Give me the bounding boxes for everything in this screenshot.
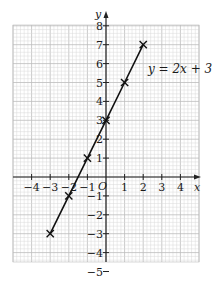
y-tick-label: 3 (96, 114, 103, 127)
y-tick-label: 8 (96, 20, 103, 33)
x-tick-label: 3 (158, 181, 165, 194)
x-tick-label: −4 (23, 181, 39, 194)
tick-labels: −4−3−2−11234−5−4−3−2−112345678 (23, 20, 183, 279)
linear-graph: −4−3−2−11234−5−4−3−2−112345678 y = 2x + … (0, 0, 212, 285)
y-tick-label: −5 (87, 266, 103, 279)
origin-label: O (98, 180, 107, 193)
y-tick-label: 5 (96, 77, 103, 90)
y-tick-label: 4 (96, 95, 103, 108)
y-tick-label: −4 (87, 247, 103, 260)
x-tick-label: 4 (177, 181, 184, 194)
y-tick-label: −2 (87, 209, 103, 222)
x-tick-label: −3 (42, 181, 58, 194)
x-tick-label: 2 (140, 181, 147, 194)
y-axis-label: y (94, 8, 102, 21)
x-tick-label: 1 (121, 181, 128, 194)
y-tick-label: 7 (96, 39, 103, 52)
y-tick-label: 6 (96, 58, 103, 71)
y-tick-label: 1 (96, 152, 103, 165)
plot-area: −4−3−2−11234−5−4−3−2−112345678 y = 2x + … (0, 0, 212, 285)
equation-label: y = 2x + 3 (147, 62, 212, 76)
y-tick-label: −3 (87, 228, 103, 241)
x-axis-label: x (194, 181, 201, 194)
